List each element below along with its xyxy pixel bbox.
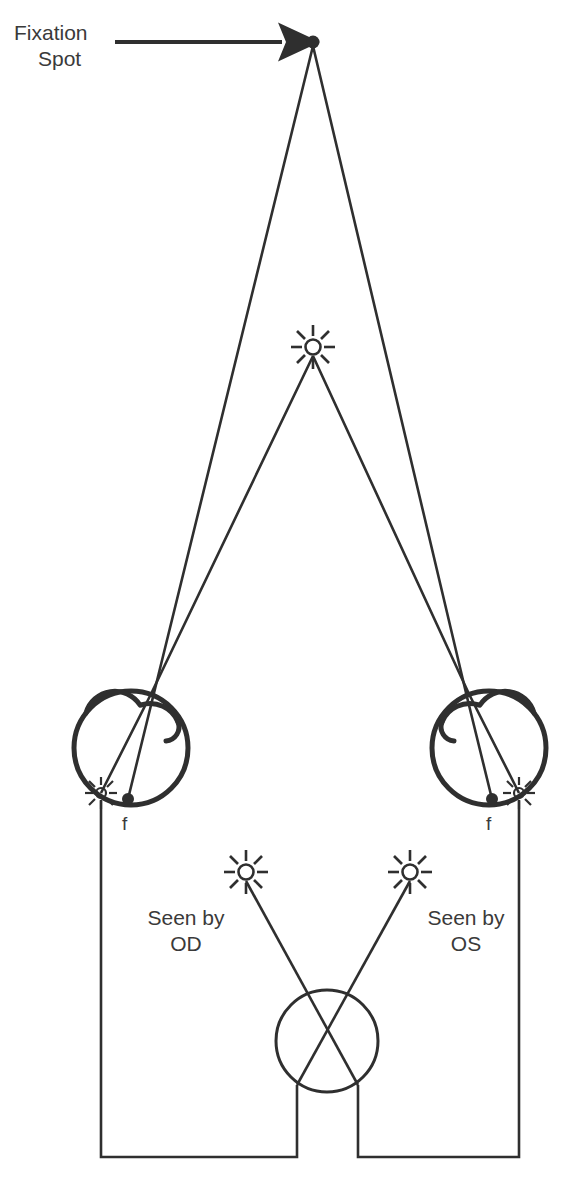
diagram-canvas: Fixation Spot <box>0 0 585 1189</box>
right-fovea-dot <box>486 793 498 805</box>
fixation-label-line1: Fixation <box>14 21 88 44</box>
diagram-background <box>0 0 585 1189</box>
left-fovea-dot <box>122 793 134 805</box>
fixation-label-line2: Spot <box>38 47 81 70</box>
retinal-correspondence-diagram: Fixation Spot <box>0 0 585 1189</box>
left-fovea-label: f <box>122 813 128 834</box>
seen-by-os-line2: OS <box>451 932 481 955</box>
seen-by-od-line2: OD <box>170 932 202 955</box>
seen-by-od-line1: Seen by <box>147 906 225 929</box>
right-fovea-label: f <box>486 813 492 834</box>
seen-by-os-line1: Seen by <box>427 906 505 929</box>
